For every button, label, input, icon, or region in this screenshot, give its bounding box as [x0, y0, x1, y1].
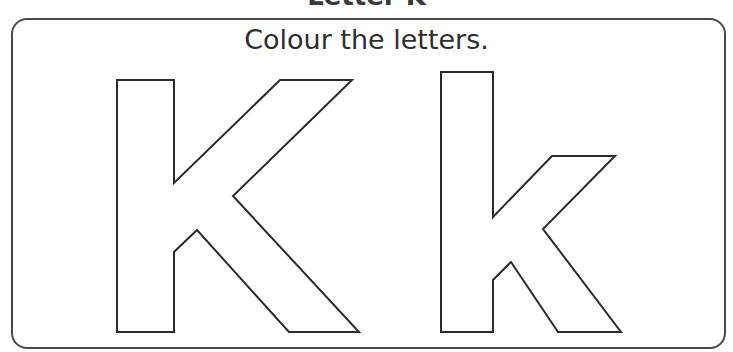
letter-outlines — [0, 0, 733, 352]
lowercase-k-outline[interactable] — [441, 72, 621, 332]
uppercase-k-outline[interactable] — [117, 80, 359, 332]
